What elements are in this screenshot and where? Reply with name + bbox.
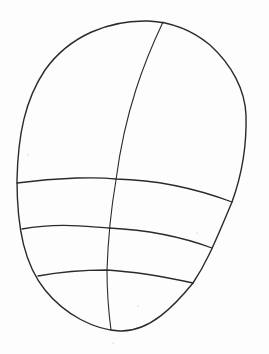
brow-line <box>17 178 232 202</box>
stray-pencil-marks <box>27 154 197 343</box>
vertical-center-line <box>107 22 163 330</box>
nose-line <box>22 225 212 248</box>
sketch-canvas <box>0 0 269 354</box>
pencil-dot <box>112 342 113 343</box>
mouth-line <box>38 270 193 283</box>
horizontal-guide-lines <box>17 178 232 283</box>
head-sketch <box>0 0 269 354</box>
pencil-dot <box>27 154 28 155</box>
pencil-dot <box>196 232 197 233</box>
head-outline <box>17 21 246 331</box>
pencil-dot <box>137 305 138 306</box>
